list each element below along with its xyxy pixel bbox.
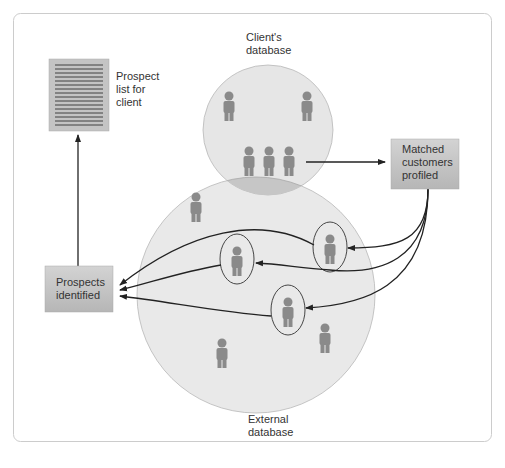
prospect-list-label: Prospect list for client [116, 70, 159, 109]
matched-customers-line2: customers [402, 156, 453, 169]
external-database-label: External database [248, 413, 293, 439]
external-database-circle [137, 177, 375, 413]
prospect-list-label-line3: client [116, 96, 159, 109]
external-database-line2: database [248, 426, 293, 439]
prospect-list-document [49, 59, 109, 131]
matched-customers-label: Matched customers profiled [402, 143, 453, 182]
prospect-list-label-line2: list for [116, 83, 159, 96]
prospect-list-label-line1: Prospect [116, 70, 159, 83]
diagram-canvas [0, 0, 505, 468]
external-database-line1: External [248, 413, 293, 426]
prospects-identified-label: Prospects identified [56, 276, 105, 302]
matched-customers-line3: profiled [402, 169, 453, 182]
matched-customers-line1: Matched [402, 143, 453, 156]
client-database-label-line2: database [246, 44, 291, 57]
client-database-label-line1: Client's [246, 31, 291, 44]
prospects-identified-line1: Prospects [56, 276, 105, 289]
client-database-label: Client's database [246, 31, 291, 57]
prospects-identified-line2: identified [56, 289, 105, 302]
